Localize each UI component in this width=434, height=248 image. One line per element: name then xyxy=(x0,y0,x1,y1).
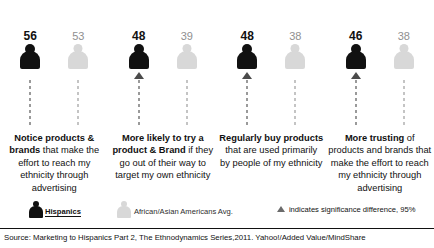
hispanics-value: 48 xyxy=(241,30,254,42)
person-body xyxy=(68,51,88,69)
person-icon-light xyxy=(67,44,89,70)
figure-pair: 48 38 xyxy=(220,8,323,70)
column-caption: More trusting of products and brands tha… xyxy=(328,132,432,194)
person-body xyxy=(285,51,305,69)
dashed-line xyxy=(29,80,31,128)
caption-bold: More trusting xyxy=(345,133,404,143)
person-icon-dark xyxy=(128,44,150,70)
stem-light xyxy=(294,72,296,128)
person-body xyxy=(346,51,366,69)
caption-rest: that are used primarily by people of my … xyxy=(220,145,322,167)
dashed-line xyxy=(77,80,79,128)
significance-triangle-icon xyxy=(351,72,361,79)
source-bar: Source: Marketing to Hispanics Part 2, T… xyxy=(0,228,434,243)
figure-pair: 46 38 xyxy=(329,8,432,70)
stem-light xyxy=(186,72,188,128)
stem-dark-wrap xyxy=(122,70,156,128)
chart-column: 46 38 xyxy=(326,8,434,194)
other-value: 38 xyxy=(289,30,301,42)
person-icon-dark xyxy=(28,201,43,218)
legend-item-significance: indicates significance difference, 95% xyxy=(277,205,416,214)
stem-pair xyxy=(3,70,106,128)
chart-column: 56 53 xyxy=(0,8,109,194)
stem-dark xyxy=(29,72,31,128)
hispanics-value: 46 xyxy=(349,30,362,42)
person-body xyxy=(129,51,149,69)
significance-triangle-icon xyxy=(134,72,144,79)
legend-label-hispanics: Hispanics xyxy=(45,207,81,217)
stem-pair xyxy=(329,70,432,128)
legend-item-other: African/Asian Americans Avg. xyxy=(117,201,233,218)
stem-pair xyxy=(112,70,215,128)
dashed-line xyxy=(186,80,188,128)
hispanics-value: 56 xyxy=(24,30,37,42)
stem-light xyxy=(403,72,405,128)
column-caption: Notice products & brands that make the e… xyxy=(2,132,106,194)
person-body xyxy=(117,206,131,218)
caption-bold: Regularly buy products xyxy=(219,133,323,143)
stem-pair xyxy=(220,70,323,128)
person-icon-light xyxy=(393,44,415,70)
person-body xyxy=(20,51,40,69)
chart-column: 48 39 xyxy=(109,8,218,194)
hispanics-value: 48 xyxy=(132,30,145,42)
stem-dark-wrap xyxy=(230,70,264,128)
other-figure-group: 53 xyxy=(61,30,95,70)
legend-label-significance: indicates significance difference, 95% xyxy=(289,205,416,214)
person-icon-dark xyxy=(345,44,367,70)
significance-triangle-icon xyxy=(277,206,285,212)
other-value: 39 xyxy=(181,30,193,42)
legend-label-other: African/Asian Americans Avg. xyxy=(134,207,233,216)
other-figure-group: 38 xyxy=(278,30,312,70)
hispanics-figure-group: 46 xyxy=(339,30,373,70)
column-caption: More likely to try a product & Brand if … xyxy=(111,132,215,182)
stem-light-wrap xyxy=(278,70,312,128)
other-figure-group: 39 xyxy=(170,30,204,70)
stem-dark xyxy=(355,72,357,128)
stem-dark-wrap xyxy=(339,70,373,128)
infographic-root: 56 53 xyxy=(0,0,434,248)
hispanics-figure-group: 48 xyxy=(230,30,264,70)
person-body xyxy=(237,51,257,69)
stem-light xyxy=(77,72,79,128)
person-icon-light xyxy=(117,201,132,218)
stem-light-wrap xyxy=(387,70,421,128)
column-caption: Regularly buy products that are used pri… xyxy=(219,132,323,169)
dashed-line xyxy=(246,80,248,128)
person-icon-light xyxy=(176,44,198,70)
source-text: Source: Marketing to Hispanics Part 2, T… xyxy=(0,229,434,243)
significance-triangle-icon xyxy=(242,72,252,79)
stem-dark xyxy=(138,72,140,128)
person-body xyxy=(29,206,43,218)
chart-columns: 56 53 xyxy=(0,0,434,194)
person-icon-dark xyxy=(236,44,258,70)
dashed-line xyxy=(138,80,140,128)
chart-column: 48 38 xyxy=(217,8,326,194)
dashed-line xyxy=(403,80,405,128)
other-value: 38 xyxy=(398,30,410,42)
stem-light-wrap xyxy=(61,70,95,128)
chart-legend: Hispanics African/Asian Americans Avg. i… xyxy=(0,196,434,222)
legend-item-hispanics: Hispanics xyxy=(28,201,81,218)
person-body xyxy=(394,51,414,69)
stem-dark xyxy=(246,72,248,128)
hispanics-figure-group: 48 xyxy=(122,30,156,70)
stem-light-wrap xyxy=(170,70,204,128)
dashed-line xyxy=(294,80,296,128)
person-body xyxy=(177,51,197,69)
person-icon-dark xyxy=(19,44,41,70)
figure-pair: 48 39 xyxy=(112,8,215,70)
hispanics-figure-group: 56 xyxy=(13,30,47,70)
figure-pair: 56 53 xyxy=(3,8,106,70)
other-value: 53 xyxy=(72,30,84,42)
dashed-line xyxy=(355,80,357,128)
other-figure-group: 38 xyxy=(387,30,421,70)
stem-dark-wrap xyxy=(13,70,47,128)
person-icon-light xyxy=(284,44,306,70)
